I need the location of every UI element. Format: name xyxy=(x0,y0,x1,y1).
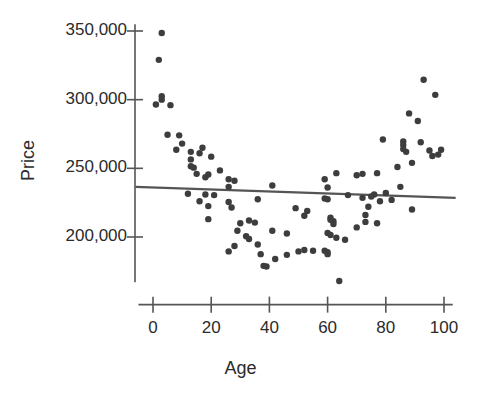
data-point xyxy=(380,136,386,142)
data-point xyxy=(269,228,275,234)
data-point xyxy=(415,118,421,124)
data-point xyxy=(257,251,263,257)
data-point xyxy=(199,145,205,151)
data-point xyxy=(301,247,307,253)
data-point xyxy=(362,219,368,225)
data-point xyxy=(179,140,185,146)
data-point xyxy=(284,230,290,236)
data-point xyxy=(426,147,432,153)
data-point xyxy=(324,251,330,257)
x-axis-tick-label: 40 xyxy=(239,318,299,338)
data-point xyxy=(185,191,191,197)
data-point xyxy=(359,171,365,177)
data-point xyxy=(374,220,380,226)
data-point xyxy=(234,228,240,234)
data-point xyxy=(205,203,211,209)
data-point xyxy=(394,164,400,170)
data-point xyxy=(420,77,426,83)
data-point xyxy=(246,217,252,223)
data-point xyxy=(255,196,261,202)
data-point xyxy=(321,176,327,182)
data-point xyxy=(429,153,435,159)
data-point xyxy=(246,236,252,242)
data-point xyxy=(167,102,173,108)
data-point xyxy=(336,278,342,284)
data-point xyxy=(173,147,179,153)
data-point xyxy=(225,248,231,254)
data-point xyxy=(383,190,389,196)
data-point xyxy=(333,234,339,240)
data-point xyxy=(438,147,444,153)
data-point xyxy=(202,191,208,197)
regression-line xyxy=(136,187,456,198)
trendline xyxy=(136,187,456,198)
data-point xyxy=(354,172,360,178)
data-point xyxy=(252,219,258,225)
data-point xyxy=(397,184,403,190)
data-point xyxy=(327,232,333,238)
data-point xyxy=(196,150,202,156)
data-point xyxy=(196,198,202,204)
data-point xyxy=(374,170,380,176)
data-point xyxy=(354,224,360,230)
data-point xyxy=(225,176,231,182)
y-axis-tick-label: 200,000 xyxy=(10,226,127,246)
data-point xyxy=(432,92,438,98)
data-point xyxy=(159,96,165,102)
data-point xyxy=(211,192,217,198)
data-point xyxy=(272,256,278,262)
data-point xyxy=(164,131,170,137)
data-point xyxy=(409,206,415,212)
data-point xyxy=(324,184,330,190)
data-point xyxy=(231,177,237,183)
data-point xyxy=(225,199,231,205)
data-point xyxy=(269,182,275,188)
y-axis-tick-label: 350,000 xyxy=(10,20,127,40)
data-point xyxy=(409,160,415,166)
y-axis-label: Price xyxy=(18,111,39,211)
x-axis-tick-label: 80 xyxy=(356,318,416,338)
data-point xyxy=(208,153,214,159)
data-point xyxy=(188,156,194,162)
x-axis-tick-label: 20 xyxy=(181,318,241,338)
data-point xyxy=(388,197,394,203)
data-point xyxy=(301,213,307,219)
data-point xyxy=(225,184,231,190)
data-point xyxy=(377,198,383,204)
scatter-plot-figure: 200,000250,000300,000350,000 02040608010… xyxy=(0,0,481,402)
data-point xyxy=(284,252,290,258)
data-point xyxy=(342,237,348,243)
data-point xyxy=(193,171,199,177)
data-point xyxy=(292,205,298,211)
data-point xyxy=(202,174,208,180)
data-point xyxy=(295,248,301,254)
x-axis-tick-label: 100 xyxy=(414,318,474,338)
data-points xyxy=(153,30,445,284)
data-point xyxy=(228,204,234,210)
data-point xyxy=(359,195,365,201)
x-axis-label: Age xyxy=(0,358,481,379)
data-point xyxy=(205,216,211,222)
data-point xyxy=(237,220,243,226)
x-axis-tick-label: 0 xyxy=(123,318,183,338)
data-point xyxy=(362,212,368,218)
data-point xyxy=(153,101,159,107)
data-point xyxy=(330,221,336,227)
data-point xyxy=(324,196,330,202)
data-point xyxy=(365,204,371,210)
data-point xyxy=(255,241,261,247)
data-point xyxy=(217,167,223,173)
data-point xyxy=(345,192,351,198)
data-point xyxy=(191,164,197,170)
data-point xyxy=(188,149,194,155)
data-point xyxy=(159,30,165,36)
data-point xyxy=(418,139,424,145)
data-point xyxy=(406,110,412,116)
data-point xyxy=(371,191,377,197)
y-axis-tick-label: 300,000 xyxy=(10,89,127,109)
axes xyxy=(127,24,453,313)
data-point xyxy=(333,170,339,176)
data-point xyxy=(403,149,409,155)
data-point xyxy=(231,243,237,249)
data-point xyxy=(263,263,269,269)
